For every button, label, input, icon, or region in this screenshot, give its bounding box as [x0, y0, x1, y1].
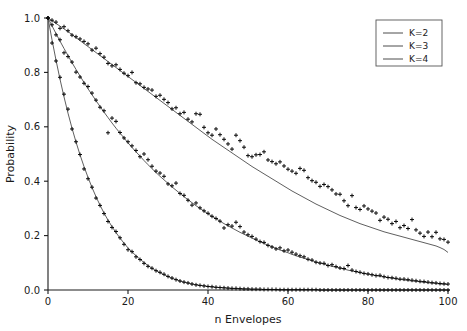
legend-label-k3[interactable]: K=3 [409, 41, 428, 51]
legend-label-k2[interactable]: K=2 [409, 28, 428, 38]
x-axis-title: n Envelopes [215, 313, 282, 326]
y-tick-label: 0.8 [24, 67, 40, 78]
y-axis-title: Probability [4, 124, 17, 183]
y-tick-label: 0.2 [24, 230, 40, 241]
chart-legend[interactable]: K=2K=3K=4 [376, 20, 442, 66]
y-tick-label: 0.0 [24, 285, 40, 296]
legend-label-k4[interactable]: K=4 [409, 54, 428, 64]
y-tick-label: 0.4 [24, 176, 40, 187]
y-tick-label: 1.0 [24, 13, 40, 24]
y-tick-label: 0.6 [24, 121, 40, 132]
x-tick-label: 80 [362, 296, 375, 307]
x-tick-label: 100 [438, 296, 457, 307]
x-tick-label: 40 [202, 296, 215, 307]
x-tick-label: 0 [45, 296, 51, 307]
probability-decay-chart: 0204060801000.00.20.40.60.81.0n Envelope… [0, 0, 467, 331]
chart-figure: 0204060801000.00.20.40.60.81.0n Envelope… [0, 0, 467, 331]
x-tick-label: 60 [282, 296, 295, 307]
x-tick-label: 20 [122, 296, 135, 307]
